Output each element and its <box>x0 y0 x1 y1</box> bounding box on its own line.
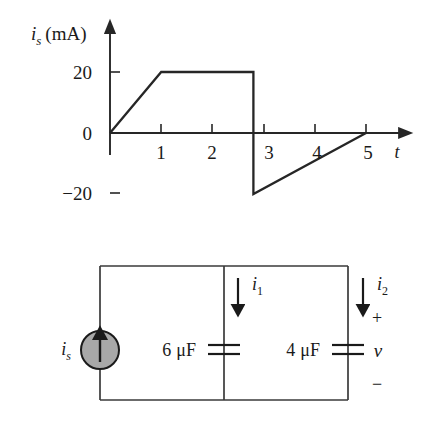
figure-svg: is(mA) 20 0 −20 1 2 3 4 5 t <box>0 0 425 429</box>
figure-container: is(mA) 20 0 −20 1 2 3 4 5 t <box>0 0 425 429</box>
y-axis-label-unit: (mA) <box>45 23 86 45</box>
voltage-polarity-minus: − <box>372 374 382 394</box>
y-tick-label-minus20: −20 <box>62 183 92 204</box>
capacitor-1-unit: μF <box>176 340 196 360</box>
y-tick-label-20: 20 <box>73 62 92 83</box>
branch-2-current-subscript: 2 <box>382 284 388 298</box>
y-axis-label-subscript: s <box>36 33 41 48</box>
x-tick-label-2: 2 <box>207 142 217 163</box>
x-tick-label-1: 1 <box>156 142 166 163</box>
capacitor-2-unit: μF <box>300 340 320 360</box>
x-tick-label-5: 5 <box>363 142 373 163</box>
branch-1-current-subscript: 1 <box>257 284 263 298</box>
current-source-label-subscript: s <box>66 349 71 363</box>
figure-background <box>0 0 425 429</box>
capacitor-1-label: 6μF <box>162 340 196 360</box>
x-tick-label-3: 3 <box>264 142 274 163</box>
voltage-label: v <box>374 340 383 361</box>
capacitor-2-label: 4μF <box>286 340 320 360</box>
x-tick-label-4: 4 <box>312 142 322 163</box>
voltage-polarity-plus: + <box>372 308 382 328</box>
capacitor-1-value: 6 <box>162 340 171 360</box>
y-tick-label-0: 0 <box>83 123 93 144</box>
capacitor-2-value: 4 <box>286 340 295 360</box>
